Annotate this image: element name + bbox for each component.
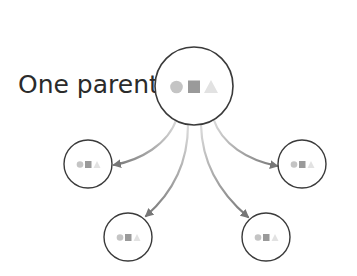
square-icon — [125, 234, 132, 241]
one-parent-diagram — [0, 0, 357, 276]
square-icon — [299, 161, 306, 168]
square-icon — [263, 234, 270, 241]
edge-to-right-child — [213, 118, 277, 166]
circle-icon — [255, 234, 262, 241]
square-icon — [188, 81, 200, 94]
circle-icon — [291, 161, 298, 168]
square-icon — [85, 161, 92, 168]
edge-to-bottom-left-child — [146, 125, 188, 216]
parent-node — [155, 47, 233, 125]
circle-icon — [170, 81, 183, 94]
child-node-bottom-left — [104, 213, 152, 261]
child-node-left — [64, 140, 112, 188]
circle-icon — [77, 161, 84, 168]
child-node-bottom-right — [242, 213, 290, 261]
edge-to-left-child — [114, 118, 177, 165]
circle-icon — [117, 234, 124, 241]
child-node-right — [278, 140, 326, 188]
